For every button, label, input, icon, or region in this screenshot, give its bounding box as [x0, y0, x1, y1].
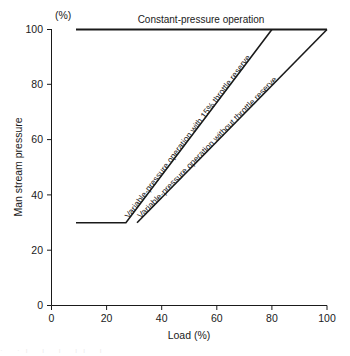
x-tick-label: 80: [266, 312, 278, 324]
x-tick-label: 20: [101, 312, 113, 324]
x-tick-label: 60: [211, 312, 223, 324]
page-scan-artifact: · ·ı ı ı ıı ı: [0, 346, 350, 356]
y-tick-label: 0: [37, 299, 43, 311]
y-axis-unit-label: (%): [55, 9, 71, 21]
series-label-constant-pressure: Constant-pressure operation: [138, 14, 265, 25]
y-axis-tick-labels: 0 20 40 60 80 100: [25, 23, 43, 311]
x-axis-tick-labels: 0 20 40 60 80 100: [49, 312, 336, 324]
x-axis-title: Load (%): [168, 329, 211, 341]
x-tick-label: 40: [156, 312, 168, 324]
x-axis-ticks: [52, 306, 328, 311]
y-axis-title: Man stream pressure: [12, 117, 24, 216]
x-tick-label: 0: [49, 312, 55, 324]
series-label-variable-pressure-with-reserve: Variable-pressure operation with 15% thr…: [123, 53, 253, 221]
y-tick-label: 100: [25, 23, 43, 35]
y-axis-ticks: [47, 30, 52, 306]
y-tick-label: 40: [31, 189, 43, 201]
chart-figure: (%) 0 20 40 60 80 100: [0, 0, 350, 356]
chart-canvas: (%) 0 20 40 60 80 100: [0, 0, 350, 356]
y-tick-label: 80: [31, 78, 43, 90]
x-tick-label: 100: [318, 312, 336, 324]
y-tick-label: 20: [31, 244, 43, 256]
series-label-variable-pressure-without-reserve: Variable-pressure operation without thro…: [135, 74, 279, 220]
y-tick-label: 60: [31, 133, 43, 145]
